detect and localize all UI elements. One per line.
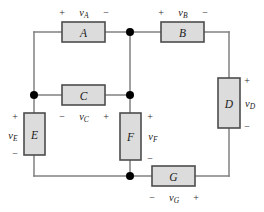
element-f-voltage-label: vF [148,131,158,144]
element-e-label: E [30,129,38,141]
element-g-plus-sign: + [193,192,199,203]
element-d[interactable]: D + vD − [218,75,256,132]
element-b-voltage-label: vB [178,7,188,20]
element-c-minus-sign: − [59,111,65,122]
element-b[interactable]: B + vB − [158,7,208,43]
element-e-voltage-subscript: E [12,133,18,142]
element-f-plus-sign: + [147,111,153,122]
node-mid-center-dot [126,91,134,99]
element-f-voltage-subscript: F [152,134,158,143]
element-a[interactable]: A + vA − [59,7,109,43]
element-e-plus-sign: + [12,111,18,122]
element-b-plus-sign: + [158,7,164,18]
element-c[interactable]: C − vC + [59,85,109,123]
element-a-voltage-subscript: A [83,10,89,19]
element-g-voltage-subscript: G [174,195,180,204]
element-a-label: A [79,27,88,39]
element-d-minus-sign: − [244,121,250,132]
element-f-label: F [126,131,135,143]
element-f[interactable]: F + vF − [120,111,158,164]
element-d-voltage-label: vD [245,98,256,111]
element-g-label: G [169,171,178,183]
element-f-minus-sign: − [147,153,153,164]
element-b-voltage-subscript: B [183,10,188,19]
node-bottom-center-dot [126,172,134,180]
element-a-voltage-label: vA [79,7,89,20]
element-d-voltage-subscript: D [249,101,256,110]
node-mid-left-dot [30,91,38,99]
element-a-plus-sign: + [59,7,65,18]
element-a-minus-sign: − [103,7,109,18]
node-top-center-dot [126,28,134,36]
element-g[interactable]: G − vG + [149,166,199,204]
circuit-canvas: A + vA − B + vB − C − vC + D + vD − [0,0,264,212]
element-g-minus-sign: − [149,192,155,203]
element-c-voltage-label: vC [79,111,90,124]
element-e[interactable]: E + vE − [8,111,45,159]
element-b-label: B [179,27,186,39]
element-d-label: D [224,98,234,110]
element-e-minus-sign: − [12,148,18,159]
element-e-voltage-label: vE [8,130,18,143]
element-c-label: C [80,90,88,102]
element-c-plus-sign: + [103,111,109,122]
element-d-plus-sign: + [244,75,250,86]
element-c-voltage-subscript: C [84,114,90,123]
element-b-minus-sign: − [202,7,208,18]
element-g-voltage-label: vG [169,192,180,205]
circuit-diagram: A + vA − B + vB − C − vC + D + vD − [0,0,264,212]
